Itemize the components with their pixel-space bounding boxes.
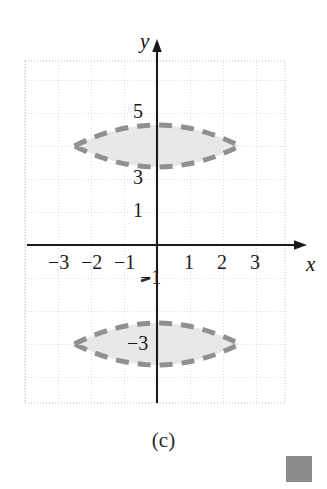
figure-caption: (c) <box>0 428 327 453</box>
y-tick-label-5: 5 <box>133 101 143 121</box>
y-tick-label-minus-3: −3 <box>127 333 148 353</box>
x-tick-label-minus-2: −2 <box>81 252 102 272</box>
y-tick-label-3: 3 <box>133 167 143 187</box>
x-tick-label-minus-3: −3 <box>48 252 69 272</box>
plot-svg <box>0 0 327 420</box>
x-tick-label-2: 2 <box>217 252 227 272</box>
x-axis-label: x <box>306 254 315 275</box>
y-axis-label: y <box>140 31 149 52</box>
x-tick-label-minus-1: −1 <box>114 252 135 272</box>
coordinate-plot: y x 5 3 1 −1 −3 −3 −2 −1 1 2 3 <box>0 0 327 420</box>
y-tick-label-1: 1 <box>133 200 143 220</box>
corner-color-swatch <box>286 456 312 482</box>
x-tick-label-1: 1 <box>184 252 194 272</box>
y-tick-label-minus-1: −1 <box>140 267 161 287</box>
x-tick-label-3: 3 <box>250 252 260 272</box>
figure-panel-c: y x 5 3 1 −1 −3 −3 −2 −1 1 2 3 (c) <box>0 0 327 489</box>
